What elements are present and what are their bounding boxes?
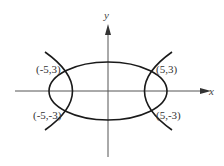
point-label-neg5-neg3: (-5,-3) [33,109,62,122]
y-axis-arrow-icon [105,24,111,35]
y-axis-label: y [103,9,109,21]
point-label-neg5-3: (-5,3) [36,63,61,76]
x-axis-label: x [208,85,214,97]
point-label-5-3: (5,3) [156,63,177,76]
point-label-5-neg3: (5,-3) [156,109,181,122]
diagram-canvas: x y (-5,3) (5,3) (-5,-3) (5,-3) [0,0,224,166]
